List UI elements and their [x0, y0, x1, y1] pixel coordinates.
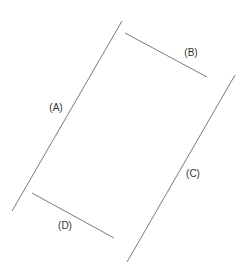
label-d: (D) [58, 220, 72, 231]
label-a: (A) [49, 102, 62, 113]
line-d [32, 193, 114, 238]
label-b: (B) [184, 47, 197, 58]
line-a [12, 21, 122, 211]
label-c: (C) [186, 168, 200, 179]
diagram-canvas: (A) (B) (C) (D) [0, 0, 244, 270]
line-layer [0, 0, 244, 270]
line-c [127, 75, 235, 262]
